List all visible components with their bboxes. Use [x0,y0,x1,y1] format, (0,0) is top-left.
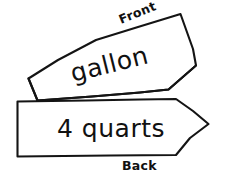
quarts-label: 4 quarts [57,114,165,143]
worksheet-canvas: Front gallon 4 quarts Back [0,0,229,179]
back-side-label: Back [122,158,157,173]
banner-diagram: Front gallon 4 quarts Back [0,0,229,179]
